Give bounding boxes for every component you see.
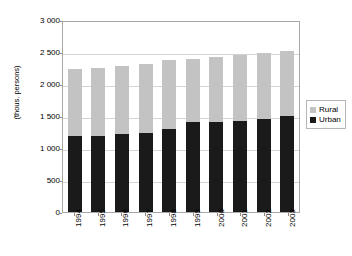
bar-group[interactable] (257, 22, 271, 212)
bar-segment-urban[interactable] (257, 119, 271, 212)
x-axis-label-slot: 1994 (67, 216, 81, 256)
x-axis-label-slot: 2003 (281, 216, 295, 256)
legend-item-label: Rural (319, 105, 338, 114)
bar-segment-urban[interactable] (280, 116, 294, 212)
legend-swatch-icon (310, 107, 316, 113)
y-axis-tick-label: 500 (14, 177, 60, 185)
bar-segment-urban[interactable] (115, 134, 129, 212)
bar-segment-urban[interactable] (162, 129, 176, 212)
x-axis-tick-label: 1995 (98, 209, 107, 227)
bar-segment-rural[interactable] (139, 64, 153, 133)
bar-segment-rural[interactable] (91, 68, 105, 136)
bar-group[interactable] (68, 22, 82, 212)
x-axis-tick-label: 1996 (121, 209, 130, 227)
y-axis-tick-labels: 3 0002 5002 0001 5001 0005000 (12, 0, 60, 256)
x-axis-tick-label: 2002 (264, 209, 273, 227)
legend-swatch-icon (310, 117, 316, 123)
bar-series-container (63, 22, 299, 212)
x-axis-tick-label: 2001 (240, 209, 249, 227)
bar-group[interactable] (280, 22, 294, 212)
bar-group[interactable] (115, 22, 129, 212)
y-axis-tick-label: 0 (14, 209, 60, 217)
x-axis-label-slot: 2000 (210, 216, 224, 256)
plot-area (62, 21, 300, 213)
bar-group[interactable] (162, 22, 176, 212)
legend-item[interactable]: Urban (310, 115, 341, 124)
y-axis-tick-label: 3 000 (14, 17, 60, 25)
x-axis-tick-label: 2003 (288, 209, 297, 227)
x-axis-tick-label: 1999 (193, 209, 202, 227)
legend-item-label: Urban (319, 115, 341, 124)
x-axis-label-slot: 1999 (186, 216, 200, 256)
bar-group[interactable] (186, 22, 200, 212)
bar-segment-urban[interactable] (139, 133, 153, 212)
bar-segment-rural[interactable] (280, 51, 294, 116)
legend: RuralUrban (306, 100, 346, 129)
bar-group[interactable] (139, 22, 153, 212)
bar-chart: (thous. persons) 3 0002 5002 0001 5001 0… (0, 0, 352, 256)
x-axis-tick-label: 1994 (74, 209, 83, 227)
x-axis-label-slot: 1995 (91, 216, 105, 256)
bar-group[interactable] (209, 22, 223, 212)
x-axis-label-slot: 1998 (162, 216, 176, 256)
y-axis-tick-label: 1 500 (14, 113, 60, 121)
x-axis-label-slot: 1997 (138, 216, 152, 256)
bar-group[interactable] (91, 22, 105, 212)
bar-segment-rural[interactable] (186, 59, 200, 122)
y-axis-tick-label: 2 500 (14, 49, 60, 57)
x-axis-label-slot: 2001 (233, 216, 247, 256)
bar-segment-urban[interactable] (68, 136, 82, 212)
x-axis-label-slot: 2002 (257, 216, 271, 256)
x-axis-tick-label: 2000 (217, 209, 226, 227)
bar-segment-urban[interactable] (233, 121, 247, 212)
bar-segment-urban[interactable] (186, 122, 200, 212)
bar-segment-urban[interactable] (91, 136, 105, 212)
bar-segment-rural[interactable] (68, 69, 82, 136)
y-axis-tick-label: 2 000 (14, 81, 60, 89)
bar-segment-rural[interactable] (115, 66, 129, 134)
legend-item[interactable]: Rural (310, 105, 341, 114)
y-axis-tick-label: 1 000 (14, 145, 60, 153)
x-axis-tick-label: 1998 (169, 209, 178, 227)
bar-group[interactable] (233, 22, 247, 212)
bar-segment-rural[interactable] (233, 55, 247, 121)
bar-segment-rural[interactable] (209, 57, 223, 122)
bar-segment-rural[interactable] (257, 53, 271, 119)
bar-segment-rural[interactable] (162, 60, 176, 130)
x-axis-tick-labels: 1994199519961997199819992000200120022003 (62, 216, 300, 256)
x-axis-tick-label: 1997 (145, 209, 154, 227)
x-axis-label-slot: 1996 (114, 216, 128, 256)
bar-segment-urban[interactable] (209, 122, 223, 212)
